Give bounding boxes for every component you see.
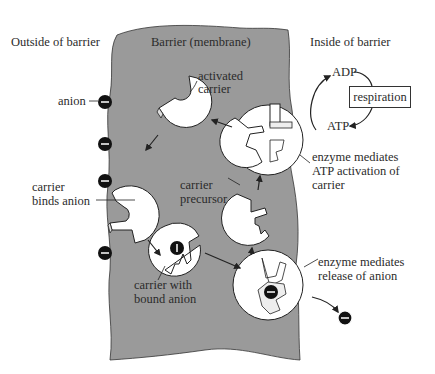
- arrow-anion-release: [312, 297, 338, 312]
- respiration-box: respiration: [349, 86, 411, 108]
- enzyme-anion-release: [233, 250, 303, 320]
- carrier-binds-label-line1: carrier: [32, 181, 65, 194]
- outside-region-label: Outside of barrier: [11, 36, 100, 49]
- enzyme-release-label-line1: enzyme mediates: [318, 256, 404, 269]
- inside-region-label: Inside of barrier: [310, 36, 391, 49]
- carrier-bound-label-line1: carrier with: [134, 279, 192, 292]
- carrier-binds-label-line2: binds anion: [32, 195, 90, 208]
- anion-released: [338, 311, 352, 325]
- enzyme-release-label-line2: release of anion: [318, 270, 397, 283]
- carrier-precursor-label-line1: carrier: [180, 179, 213, 192]
- adp-label: ADP: [332, 66, 357, 79]
- anion-outside-2: [98, 137, 112, 151]
- activated-carrier-label-line2: carrier: [198, 83, 231, 96]
- diagram-graphics: [0, 0, 435, 374]
- carrier-bound-label-line2: bound anion: [134, 293, 196, 306]
- anion-outside-3: [98, 174, 112, 188]
- enzyme-atp-label-line1: enzyme mediates: [312, 151, 398, 164]
- barrier-region-label: Barrier (membrane): [151, 36, 251, 49]
- carrier-precursor-label-line2: precursor: [180, 193, 227, 206]
- atp-label: ATP: [327, 120, 349, 133]
- diagram-canvas: Outside of barrier Barrier (membrane) In…: [0, 0, 435, 374]
- arrow-resp-to-atp: [350, 108, 372, 126]
- enzyme-atp-label-line3: carrier: [312, 179, 345, 192]
- anion-outside-4: [98, 246, 112, 260]
- anion-label: anion: [58, 95, 86, 108]
- anion-outside-1: [98, 95, 112, 109]
- enzyme-atp-label-line2: ATP activation of: [312, 165, 400, 178]
